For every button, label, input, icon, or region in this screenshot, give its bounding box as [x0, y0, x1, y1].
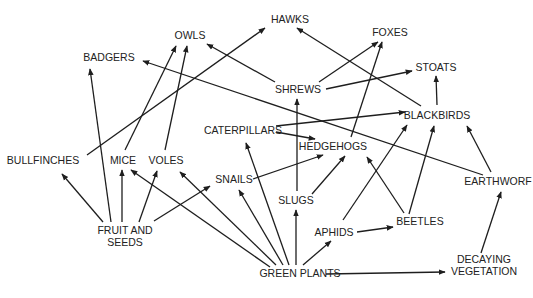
node-fruit-seeds: FRUIT ANDSEEDS: [97, 224, 152, 248]
arrow-slugs-to-hedgehogs: [312, 156, 345, 194]
node-voles: VOLES: [148, 154, 183, 166]
node-owls: OWLS: [175, 29, 206, 41]
node-bullfinches: BULLFINCHES: [7, 154, 79, 166]
arrow-beetles-to-hedgehogs: [367, 157, 404, 213]
node-caterpillars: CATERPILLARS: [204, 124, 282, 136]
arrow-beetles-to-blackbirds: [409, 126, 434, 214]
node-green-plants: GREEN PLANTS: [259, 267, 340, 279]
arrow-fruit_seeds-to-bullfinches: [62, 174, 103, 222]
food-web-diagram: HAWKSFOXESOWLSBADGERSSTOATSSHREWSBLACKBI…: [0, 0, 533, 298]
arrow-blackbirds-to-stoats: [436, 76, 437, 105]
node-aphids: APHIDS: [314, 226, 353, 238]
arrow-hedgehogs-to-foxes: [351, 42, 382, 137]
node-beetles: BEETLES: [396, 215, 443, 227]
arrow-aphids-to-beetles: [357, 227, 393, 232]
node-slugs: SLUGS: [278, 194, 314, 206]
arrow-snails-to-hedgehogs: [253, 155, 323, 179]
arrow-earthworms-to-blackbirds: [467, 126, 491, 172]
node-blackbirds: BLACKBIRDS: [404, 109, 471, 121]
node-earthworms: EARTHWORF: [464, 175, 531, 187]
arrow-shrews-to-owls: [207, 44, 275, 82]
node-foxes: FOXES: [372, 26, 408, 38]
node-stoats: STOATS: [415, 61, 456, 73]
arrow-caterpillars-to-blackbirds: [276, 112, 405, 126]
node-decaying-vegetation: DECAYINGVEGETATION: [451, 253, 517, 277]
node-snails: SNAILS: [215, 173, 252, 185]
node-badgers: BADGERS: [83, 51, 134, 63]
arrow-decaying_vegetation-to-earthworms: [481, 192, 501, 253]
node-hawks: HAWKS: [271, 13, 309, 25]
node-mice: MICE: [110, 154, 136, 166]
arrow-green_plants-to-aphids: [303, 241, 331, 265]
node-hedgehogs: HEDGEHOGS: [299, 140, 367, 152]
arrow-fruit_seeds-to-voles: [139, 171, 157, 222]
node-shrews: SHREWS: [275, 83, 321, 95]
arrow-green_plants-to-decaying_vegetation: [326, 272, 445, 274]
